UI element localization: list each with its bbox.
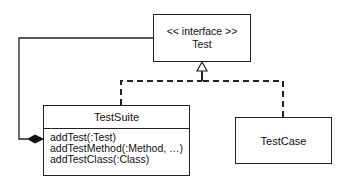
interface-test-box[interactable]: << interface >> Test: [153, 14, 251, 62]
interface-name: Test: [192, 38, 211, 51]
class-testcase-box[interactable]: TestCase: [235, 117, 332, 164]
hollow-triangle-arrow-icon: [197, 62, 207, 71]
class-testsuite-operations: addTest(:Test) addTestMethod(:Method, …)…: [44, 129, 189, 165]
filled-diamond-icon: [28, 135, 43, 143]
class-testsuite-box[interactable]: TestSuite addTest(:Test) addTestMethod(:…: [43, 105, 190, 176]
class-testcase-name: TestCase: [261, 135, 307, 147]
class-testsuite-name: TestSuite: [94, 111, 139, 123]
operation-item: addTestClass(:Class): [50, 154, 189, 165]
realization-line-testcase: [202, 81, 283, 117]
realization-line-testsuite: [121, 81, 202, 105]
interface-stereotype: << interface >>: [167, 25, 238, 38]
class-testsuite-header: TestSuite: [44, 106, 189, 129]
